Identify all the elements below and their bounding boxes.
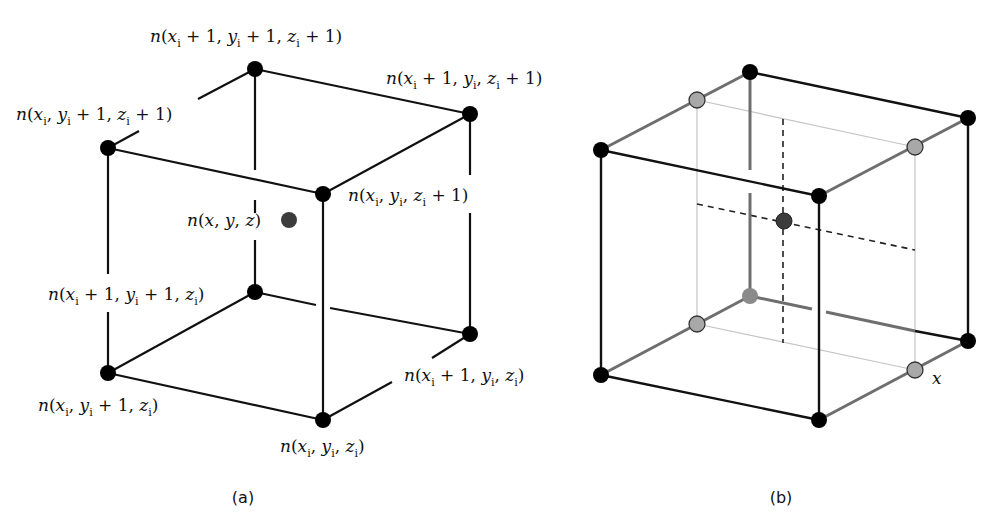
node-interior (281, 212, 297, 228)
corner-node (960, 333, 976, 349)
node-bottom-left (100, 365, 116, 381)
corner-node (742, 64, 758, 80)
node-top-left (100, 140, 116, 156)
corner-node (593, 142, 609, 158)
node-top-right (462, 106, 478, 122)
axis-label-x: x (932, 368, 942, 388)
label-interior: n(x, y, z) (187, 210, 261, 230)
node-bottom-back (247, 284, 263, 300)
label-top-front: n(xi, yi, zi + 1) (348, 185, 468, 209)
intermediate-node (689, 92, 705, 108)
label-top-right: n(xi + 1, yi, zi + 1) (386, 68, 542, 92)
label-bottom-front: n(xi, yi, zi) (280, 436, 365, 460)
label-bottom-left: n(xi, yi + 1, zi) (38, 395, 159, 419)
caption-b: (b) (770, 488, 793, 507)
intermediate-node (907, 139, 923, 155)
label-top-back: n(xi + 1, yi + 1, zi + 1) (150, 26, 342, 50)
node-bottom-front (315, 412, 331, 428)
corner-node (960, 110, 976, 126)
panel-b-guides (697, 100, 915, 370)
label-bottom-right: n(xi + 1, yi, zi) (404, 365, 525, 389)
corner-node (593, 367, 609, 383)
caption-a: (a) (232, 488, 254, 507)
node-bottom-right (462, 326, 478, 342)
intermediate-node (689, 316, 705, 332)
figure-canvas: n(xi + 1, yi + 1, zi + 1) n(xi + 1, yi, … (0, 0, 993, 526)
label-top-left: n(xi, yi + 1, zi + 1) (16, 104, 172, 128)
corner-node (811, 412, 827, 428)
panel-b-dashed (697, 119, 915, 343)
hidden-corner-node (742, 288, 758, 304)
label-bottom-back: n(xi + 1, yi + 1, zi) (48, 284, 204, 308)
intermediate-node (907, 362, 923, 378)
node-top-front (315, 186, 331, 202)
interior-node (776, 213, 792, 229)
corner-node (811, 188, 827, 204)
node-top-back (247, 61, 263, 77)
